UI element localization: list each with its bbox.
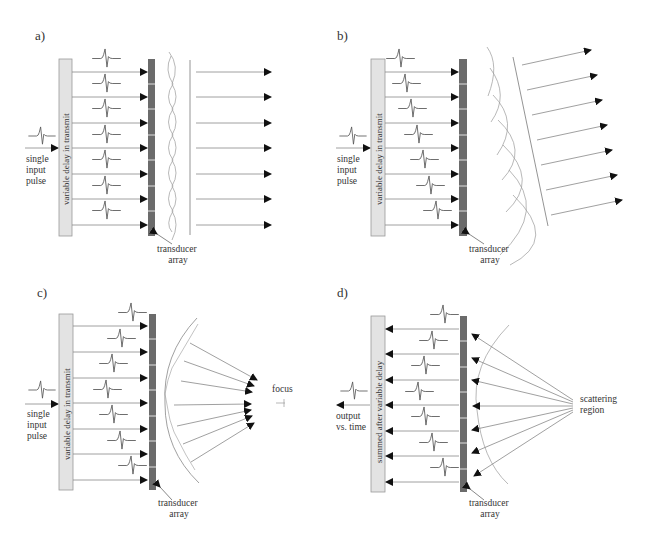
input-pulse-icon — [28, 381, 55, 398]
wavelets — [487, 47, 536, 265]
delay-box-label: variable delay in transmit — [374, 113, 384, 205]
delay-box-label: variable delay in transmit — [61, 113, 71, 205]
input-pulse-icon — [28, 127, 55, 144]
input-label: single input pulse — [337, 154, 362, 186]
receive-channel-arrows — [386, 329, 459, 482]
channel-pulses — [386, 49, 452, 219]
focus-label: focus — [272, 384, 293, 394]
echo-arrows — [472, 334, 573, 476]
input-label: single input pulse — [26, 154, 51, 186]
channel-arrows — [73, 326, 147, 480]
panel-c-label: c) — [37, 285, 47, 300]
scattered-wavefront — [476, 325, 509, 484]
panel-d: d) output vs. time summed after variable… — [336, 285, 619, 519]
panel-a: a) single input pulse variable delay in … — [25, 28, 271, 265]
transducer-pointer — [157, 234, 172, 244]
transducer-array — [148, 59, 155, 236]
transducer-array — [460, 316, 467, 492]
transducer-array — [149, 314, 156, 490]
channel-arrows — [72, 72, 147, 225]
converging-wavefront — [165, 318, 199, 483]
scattering-region-label: scattering region — [580, 394, 619, 415]
channel-pulses — [405, 305, 459, 476]
panel-d-label: d) — [337, 285, 348, 300]
transducer-label: transducer array — [157, 244, 199, 265]
channel-pulses — [92, 49, 121, 219]
steered-propagation-arrows — [522, 50, 622, 215]
panel-a-label: a) — [35, 28, 45, 43]
panel-c: c) single input pulse variable delay in … — [25, 285, 293, 519]
panel-b: b) single input pulse variable delay in … — [336, 28, 622, 265]
output-label: output vs. time — [336, 411, 366, 432]
focus-marker — [276, 399, 285, 407]
channel-pulses — [93, 303, 147, 474]
transducer-label: transducer array — [158, 498, 200, 519]
input-pulse-icon — [339, 127, 366, 144]
output-pulse-icon — [340, 382, 367, 399]
transducer-label: transducer array — [469, 244, 511, 265]
propagation-arrows — [196, 72, 271, 225]
channel-arrows — [385, 72, 458, 225]
delay-box-label: variable delay in transmit — [62, 368, 72, 460]
focusing-arrows — [174, 343, 257, 462]
transducer-label: transducer array — [469, 498, 511, 519]
transducer-pointer — [469, 234, 484, 244]
beamforming-diagram: a) single input pulse variable delay in … — [0, 0, 647, 539]
panel-b-label: b) — [337, 28, 348, 43]
figure-caption-cutoff — [22, 531, 622, 539]
input-label: single input pulse — [27, 409, 52, 441]
transducer-array — [459, 59, 467, 236]
delay-box-label: summed after variable delay — [374, 360, 384, 463]
